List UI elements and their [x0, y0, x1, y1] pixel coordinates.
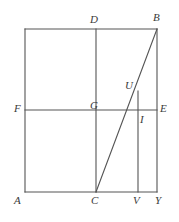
vertex-label-i: I	[140, 114, 144, 125]
vertex-label-a: A	[14, 195, 21, 206]
figure-canvas	[0, 0, 179, 222]
geometry-figure: ADBFGEUICVY	[0, 0, 179, 222]
vertex-label-e: E	[160, 103, 167, 114]
vertex-label-f: F	[14, 103, 21, 114]
vertex-label-y: Y	[155, 195, 161, 206]
vertex-label-u: U	[125, 80, 133, 91]
vertex-label-d: D	[90, 14, 98, 25]
vertex-label-v: V	[133, 195, 140, 206]
vertex-label-b: B	[153, 12, 160, 23]
vertex-label-g: G	[90, 100, 98, 111]
vertex-label-c: C	[91, 195, 98, 206]
